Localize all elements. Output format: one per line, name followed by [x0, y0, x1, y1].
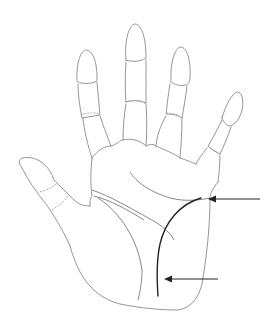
index-finger [77, 50, 111, 158]
hand-illustration [0, 0, 274, 322]
arrowhead-icon [164, 276, 172, 283]
life-line [98, 198, 142, 300]
middle-finger [123, 24, 147, 146]
heart-line [130, 172, 210, 200]
lower-arrow [164, 276, 218, 283]
hand-diagram [0, 0, 274, 322]
fate-line [157, 198, 201, 296]
ring-finger [156, 47, 190, 158]
upper-arrow [208, 196, 260, 203]
palm [70, 139, 218, 310]
little-finger [196, 92, 243, 182]
arrowhead-icon [208, 196, 216, 203]
palm-lines [92, 172, 210, 300]
thumb [19, 157, 90, 246]
head-line [92, 190, 174, 240]
